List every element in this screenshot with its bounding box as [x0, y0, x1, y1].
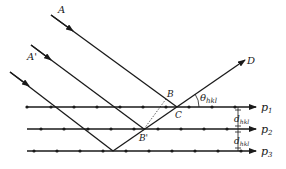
- label-p2: p2: [261, 123, 273, 137]
- angle-arc: [195, 94, 199, 107]
- incident-ray-3: [10, 72, 113, 151]
- label-p1: p1: [261, 101, 273, 115]
- incident-ray-a-prime: [31, 45, 144, 129]
- label-d-hkl-1: dhkl: [234, 114, 249, 125]
- label-theta: θhkl: [200, 92, 217, 105]
- label-c: C: [175, 110, 182, 120]
- incident-ray-a: [51, 15, 177, 107]
- label-d-hkl-2: dhkl: [234, 136, 249, 147]
- path-difference-line: [144, 99, 166, 129]
- label-a-prime: A': [26, 51, 37, 62]
- reflected-ray-d: [113, 60, 245, 151]
- label-b-prime: B': [138, 133, 148, 143]
- label-p3: p3: [261, 145, 273, 159]
- label-b: B: [166, 89, 174, 99]
- bragg-diagram: A A' D B B' C θhkl dhkl dhkl p1 p2 p3: [0, 0, 286, 169]
- label-d: D: [246, 55, 255, 66]
- label-a: A: [57, 4, 65, 15]
